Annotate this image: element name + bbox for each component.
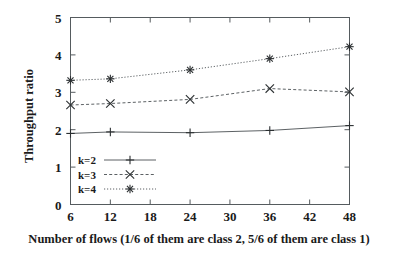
legend-label-k3: k=3 xyxy=(78,169,96,181)
chart-figure: 012345 612182430364248 k=2k=3k=4 Through… xyxy=(0,0,399,253)
x-tick-label: 30 xyxy=(223,209,236,224)
y-tick-label: 1 xyxy=(55,160,62,175)
legend-label-k2: k=2 xyxy=(78,154,96,166)
chart-legend: k=2k=3k=4 xyxy=(76,149,184,196)
x-tick-label: 24 xyxy=(184,209,198,224)
y-axis-title: Throughput ratio xyxy=(22,69,36,163)
x-axis-title: Number of flows (1/6 of them are class 2… xyxy=(28,232,369,246)
series-k2 xyxy=(66,121,353,137)
x-tick-label: 48 xyxy=(343,209,357,224)
x-tick-label: 18 xyxy=(144,209,158,224)
series-k3 xyxy=(66,84,353,109)
x-tick-label: 36 xyxy=(263,209,277,224)
x-tick-label: 42 xyxy=(303,209,316,224)
legend-label-k4: k=4 xyxy=(78,183,96,195)
y-tick-label: 3 xyxy=(55,85,62,100)
series-line-k4 xyxy=(71,47,350,81)
y-tick-label: 0 xyxy=(55,198,62,213)
x-tick-label: 6 xyxy=(67,209,74,224)
series-line-k3 xyxy=(71,89,350,105)
series-k4 xyxy=(66,42,353,84)
data-series-group xyxy=(66,42,353,137)
y-tick-label: 5 xyxy=(55,11,62,26)
y-tick-label: 4 xyxy=(55,48,62,63)
throughput-ratio-line-chart: 012345 612182430364248 k=2k=3k=4 Through… xyxy=(0,0,399,253)
x-tick-label: 12 xyxy=(104,209,117,224)
y-tick-label: 2 xyxy=(55,123,62,138)
